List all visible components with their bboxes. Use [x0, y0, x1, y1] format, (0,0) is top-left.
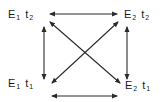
node-symbol: E	[8, 78, 15, 89]
node-symbol: t	[25, 78, 28, 89]
node-subscript: 1	[16, 83, 20, 90]
node-subscript: 2	[29, 14, 33, 21]
node-e2t2: E2t2	[124, 9, 149, 21]
node-subscript: 2	[133, 85, 137, 92]
node-subscript: 2	[132, 14, 136, 21]
node-subscript: 1	[16, 14, 20, 21]
diagram-canvas: E1t2 E2t2 E1t1 E2t1	[0, 0, 162, 102]
node-symbol: E	[124, 9, 131, 20]
node-e1t2: E1t2	[8, 9, 33, 21]
node-symbol: E	[8, 9, 15, 20]
node-subscript: 1	[29, 83, 33, 90]
arrow-e1t1-e2t2	[52, 22, 118, 83]
node-e1t1: E1t1	[8, 78, 33, 90]
node-symbol: t	[25, 9, 28, 20]
node-subscript: 1	[146, 85, 150, 92]
node-symbol: E	[125, 80, 132, 91]
node-symbol: t	[142, 80, 145, 91]
node-symbol: t	[141, 9, 144, 20]
node-e2t1: E2t1	[125, 80, 150, 92]
node-subscript: 2	[145, 14, 149, 21]
